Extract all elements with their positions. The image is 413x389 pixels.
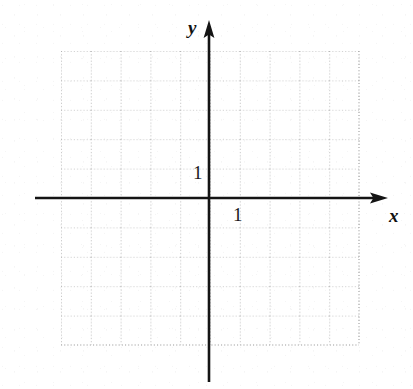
coordinate-plane-figure: y x 1 1 — [0, 0, 413, 389]
x-axis-label: x — [389, 206, 399, 225]
plot-canvas — [0, 0, 413, 389]
y-axis-label: y — [188, 18, 196, 37]
x-axis-tick-label-1: 1 — [233, 205, 243, 224]
y-axis-tick-label-1: 1 — [193, 163, 203, 182]
